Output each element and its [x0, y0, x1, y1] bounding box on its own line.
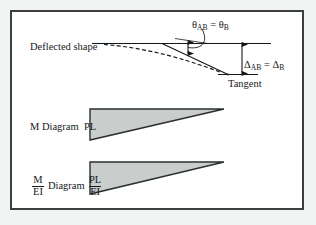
- theta-subscript-1: AB: [197, 23, 207, 32]
- fraction-m-over-ei: M EI: [32, 175, 44, 197]
- theta-equals-sign: =: [208, 19, 219, 30]
- fraction-pl-over-ei: PL EI: [88, 175, 102, 197]
- theta-subscript-2: B: [224, 23, 229, 32]
- fraction-numerator-m: M: [32, 175, 43, 186]
- label-pl: PL: [84, 122, 96, 133]
- figure-panel: Deflected shape θAB = θB ΔAB = ΔB Tangen…: [10, 10, 304, 210]
- label-theta-relation: θAB = θB: [192, 20, 229, 31]
- delta-subscript-2: B: [279, 63, 284, 72]
- delta-subscript-1: AB: [251, 63, 261, 72]
- mei-diagram-triangle: [90, 162, 224, 194]
- deflected-shape-curve: [104, 45, 220, 73]
- delta-equals-sign: =: [261, 59, 272, 70]
- label-diagram-word: Diagram: [48, 181, 85, 192]
- label-pl-over-ei: PL EI: [86, 175, 104, 197]
- tangent-endpoint-marker: [227, 74, 229, 76]
- label-deflected-shape: Deflected shape: [30, 42, 97, 53]
- fraction-denominator-ei: EI: [89, 186, 101, 198]
- label-delta-relation: ΔAB = ΔB: [244, 60, 284, 71]
- figure-root: Deflected shape θAB = θB ΔAB = ΔB Tangen…: [0, 0, 316, 225]
- fraction-numerator-pl: PL: [88, 175, 102, 186]
- theta-angle-arc: [175, 29, 208, 48]
- m-diagram-triangle: [90, 109, 224, 140]
- label-mei-diagram: M EI Diagram: [30, 175, 85, 197]
- label-tangent: Tangent: [228, 79, 262, 90]
- delta-symbol-1: Δ: [244, 59, 251, 70]
- label-m-diagram: M Diagram: [30, 122, 79, 133]
- fraction-denominator-ei: EI: [32, 186, 44, 198]
